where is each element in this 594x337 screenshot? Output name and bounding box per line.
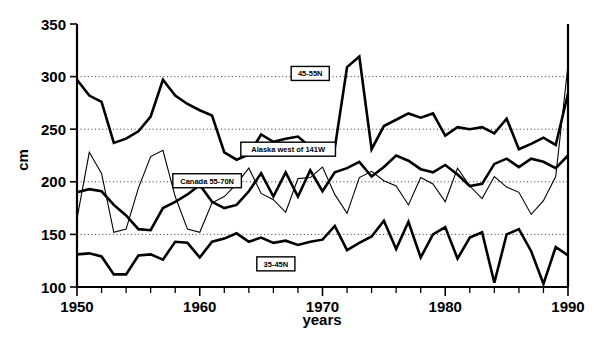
series-label-canada-55-70n: Canada 55-70N [173,174,242,188]
y-tick-label: 150 [41,226,66,243]
series-label-45-55n: 45-55N [291,66,329,80]
x-tick-label: 1980 [429,298,462,315]
y-axis-title: cm [14,149,31,171]
y-tick-label: 100 [41,279,66,296]
y-tick-label: 300 [41,68,66,85]
series-label-text: 45-55N [298,69,323,78]
x-axis-title: years [302,311,341,328]
series-label-text: Alaska west of 141W [251,145,326,154]
x-tick-label: 1960 [183,298,216,315]
series-label-alaska-west-of-141w: Alaska west of 141W [241,142,336,156]
x-tick-label: 1950 [60,298,93,315]
series-label-35-45n: 35-45N [257,257,295,271]
x-tick-label: 1990 [551,298,584,315]
chart-figure: 100150200250300350 19501960197019801990 … [0,0,594,337]
series-label-text: 35-45N [264,260,289,269]
series-label-text: Canada 55-70N [180,177,234,186]
y-tick-label: 350 [41,16,66,33]
line-chart: 100150200250300350 19501960197019801990 … [0,0,594,337]
y-tick-label: 250 [41,121,66,138]
y-tick-label: 200 [41,173,66,190]
